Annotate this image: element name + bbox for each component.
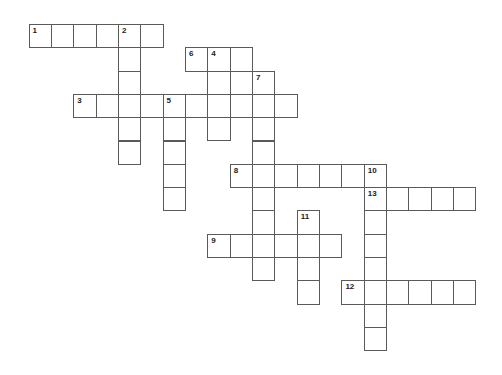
crossword-cell[interactable] (252, 141, 275, 165)
clue-number: 10 (368, 166, 377, 175)
crossword-cell[interactable] (207, 117, 230, 141)
clue-number: 9 (211, 236, 215, 245)
clue-number: 8 (234, 166, 238, 175)
clue-number: 11 (301, 212, 309, 221)
crossword-cell[interactable]: 10 (364, 164, 387, 188)
crossword-cell[interactable] (140, 94, 163, 118)
crossword-cell[interactable] (274, 164, 297, 188)
crossword-cell[interactable] (51, 24, 74, 48)
crossword-cell[interactable] (453, 280, 476, 304)
crossword-cell[interactable] (118, 71, 141, 95)
crossword-cell[interactable] (297, 164, 320, 188)
clue-number: 1 (33, 26, 37, 35)
crossword-cell[interactable]: 8 (230, 164, 253, 188)
crossword-cell[interactable] (118, 117, 141, 141)
clue-number: 5 (167, 96, 171, 105)
crossword-cell[interactable]: 6 (185, 47, 208, 71)
crossword-cell[interactable] (185, 94, 208, 118)
crossword-cell[interactable]: 2 (118, 24, 141, 48)
crossword-cell[interactable] (274, 234, 297, 258)
crossword-cell[interactable] (230, 234, 253, 258)
crossword-cell[interactable] (163, 164, 186, 188)
crossword-cell[interactable] (207, 71, 230, 95)
crossword-cell[interactable]: 9 (207, 234, 230, 258)
clue-number: 13 (368, 189, 377, 198)
crossword-cell[interactable] (252, 164, 275, 188)
crossword-grid: 12647358101311912 (0, 0, 502, 375)
crossword-cell[interactable] (207, 94, 230, 118)
crossword-cell[interactable] (364, 304, 387, 328)
crossword-cell[interactable] (252, 117, 275, 141)
crossword-cell[interactable] (230, 94, 253, 118)
clue-number: 4 (211, 49, 215, 58)
clue-number: 7 (256, 73, 260, 82)
crossword-cell[interactable] (297, 257, 320, 281)
crossword-cell[interactable] (297, 234, 320, 258)
crossword-cell[interactable] (163, 141, 186, 165)
crossword-cell[interactable] (408, 280, 431, 304)
crossword-cell[interactable] (96, 94, 119, 118)
clue-number: 6 (189, 49, 193, 58)
crossword-cell[interactable] (252, 187, 275, 211)
crossword-cell[interactable] (319, 234, 342, 258)
crossword-cell[interactable] (408, 187, 431, 211)
crossword-cell[interactable] (341, 164, 364, 188)
crossword-cell[interactable] (163, 117, 186, 141)
crossword-cell[interactable]: 12 (341, 280, 364, 304)
crossword-cell[interactable] (319, 164, 342, 188)
crossword-cell[interactable] (364, 210, 387, 234)
crossword-cell[interactable] (364, 257, 387, 281)
crossword-cell[interactable] (431, 187, 454, 211)
clue-number: 12 (345, 282, 354, 291)
crossword-cell[interactable] (386, 187, 409, 211)
crossword-cell[interactable] (252, 210, 275, 234)
crossword-cell[interactable] (230, 47, 253, 71)
clue-number: 2 (122, 26, 126, 35)
crossword-cell[interactable] (364, 280, 387, 304)
crossword-cell[interactable] (118, 47, 141, 71)
crossword-cell[interactable]: 11 (297, 210, 320, 234)
crossword-cell[interactable] (252, 257, 275, 281)
crossword-cell[interactable] (364, 234, 387, 258)
crossword-cell[interactable]: 5 (163, 94, 186, 118)
crossword-cell[interactable] (140, 24, 163, 48)
crossword-cell[interactable] (274, 94, 297, 118)
crossword-cell[interactable] (364, 327, 387, 351)
crossword-cell[interactable]: 13 (364, 187, 387, 211)
crossword-cell[interactable] (453, 187, 476, 211)
crossword-cell[interactable]: 4 (207, 47, 230, 71)
crossword-cell[interactable] (431, 280, 454, 304)
crossword-cell[interactable] (163, 187, 186, 211)
crossword-cell[interactable] (297, 280, 320, 304)
clue-number: 3 (77, 96, 81, 105)
crossword-cell[interactable] (386, 280, 409, 304)
crossword-cell[interactable] (96, 24, 119, 48)
crossword-cell[interactable] (118, 141, 141, 165)
crossword-cell[interactable] (252, 94, 275, 118)
crossword-cell[interactable]: 3 (73, 94, 96, 118)
crossword-cell[interactable] (73, 24, 96, 48)
crossword-cell[interactable] (252, 234, 275, 258)
crossword-cell[interactable]: 7 (252, 71, 275, 95)
crossword-cell[interactable] (118, 94, 141, 118)
crossword-cell[interactable]: 1 (29, 24, 52, 48)
